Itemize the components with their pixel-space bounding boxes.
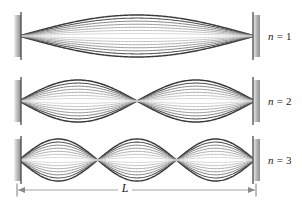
wall-body bbox=[253, 139, 260, 181]
length-label: L bbox=[115, 181, 135, 196]
wave-curve bbox=[19, 151, 255, 168]
wave-curve bbox=[19, 145, 255, 175]
wall-body bbox=[253, 15, 260, 57]
mode-label-n1: n = 1 bbox=[268, 30, 292, 42]
mode-label-n2-equals: = bbox=[277, 95, 283, 107]
mode-label-n1-equals: = bbox=[277, 30, 283, 42]
wave-curve bbox=[19, 154, 255, 165]
wall-support bbox=[253, 136, 260, 184]
wave-curve bbox=[19, 142, 255, 178]
wave-curve bbox=[19, 151, 255, 168]
dimension-arrow-right bbox=[248, 187, 255, 193]
wave-diagram-canvas bbox=[0, 0, 302, 210]
wall-body bbox=[253, 80, 260, 122]
mode-label-n3: n = 3 bbox=[268, 154, 292, 166]
standing-wave-figure: n = 1 n = 2 n = 3 L bbox=[0, 0, 302, 210]
mode-label-n1-value: 1 bbox=[286, 30, 292, 42]
mode-label-n2-variable: n bbox=[268, 95, 274, 107]
wave-curve bbox=[19, 154, 255, 165]
wall-body bbox=[14, 80, 21, 122]
mode-label-n3-variable: n bbox=[268, 154, 274, 166]
wave-curve bbox=[19, 145, 255, 175]
wall-support bbox=[253, 12, 260, 60]
length-dimension-line bbox=[17, 184, 256, 197]
mode-label-n2-value: 2 bbox=[286, 95, 292, 107]
wave-panels-group bbox=[19, 15, 255, 181]
wave-panel-panel-n1 bbox=[19, 15, 255, 57]
mode-label-n3-equals: = bbox=[277, 154, 283, 166]
mode-label-n1-variable: n bbox=[268, 30, 274, 42]
wall-support bbox=[14, 77, 21, 125]
wall-supports-group bbox=[14, 12, 260, 184]
wall-body bbox=[14, 139, 21, 181]
wave-curve bbox=[19, 142, 255, 178]
mode-label-n3-value: 3 bbox=[286, 154, 292, 166]
wave-panel-panel-n2 bbox=[19, 80, 255, 122]
wave-curve bbox=[19, 157, 255, 162]
wall-body bbox=[14, 15, 21, 57]
wall-support bbox=[14, 136, 21, 184]
wall-support bbox=[253, 77, 260, 125]
mode-label-n2: n = 2 bbox=[268, 95, 292, 107]
wave-curve bbox=[19, 157, 255, 162]
wave-panel-panel-n3 bbox=[19, 139, 255, 181]
dimension-arrow-left bbox=[18, 187, 25, 193]
wall-support bbox=[14, 12, 21, 60]
